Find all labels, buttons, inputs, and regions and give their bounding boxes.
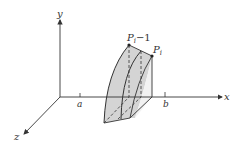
p-prev-label: Pi−1 [126, 32, 151, 45]
y-axis-label: y [56, 8, 63, 19]
tick-a-label: a [77, 99, 82, 109]
x-axis-label: x [224, 91, 230, 102]
z-axis-label: z [13, 131, 20, 142]
point-p-prev [127, 43, 130, 46]
tick-b-label: b [163, 99, 169, 109]
solid-of-revolution-diagram: y x z a b Pi−1 Pi [0, 0, 238, 151]
z-axis [24, 97, 60, 134]
p-curr-label: Pi [152, 44, 162, 57]
shaded-slab [104, 45, 152, 123]
